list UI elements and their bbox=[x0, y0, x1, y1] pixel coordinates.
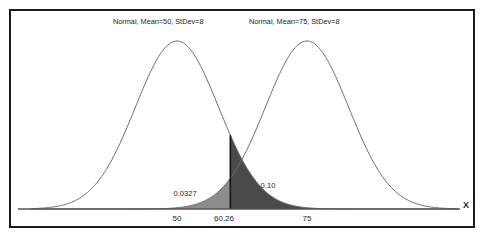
shaded-regions-group bbox=[31, 135, 457, 209]
probability-label-right: 0.10 bbox=[261, 181, 276, 190]
series-titles-group: Normal, Mean=50, StDev=8 Normal, Mean=75… bbox=[113, 17, 339, 26]
x-tick-labels-group: 50 60.26 75 bbox=[173, 214, 312, 223]
x-tick-label-critical: 60.26 bbox=[214, 214, 235, 223]
x-tick-label-75: 75 bbox=[303, 214, 312, 223]
curve-two-title: Normal, Mean=75, StDev=8 bbox=[249, 17, 339, 26]
chart-canvas: Normal, Mean=50, StDev=8 Normal, Mean=75… bbox=[0, 0, 488, 238]
x-axis-label: X bbox=[463, 200, 469, 210]
curve-one-title: Normal, Mean=50, StDev=8 bbox=[113, 17, 203, 26]
x-tick-label-50: 50 bbox=[173, 214, 182, 223]
probability-label-left: 0.0327 bbox=[173, 189, 196, 198]
shaded-region-beta bbox=[31, 178, 230, 209]
shaded-region-alpha bbox=[230, 135, 457, 209]
normal-distribution-figure: Normal, Mean=50, StDev=8 Normal, Mean=75… bbox=[0, 0, 488, 238]
